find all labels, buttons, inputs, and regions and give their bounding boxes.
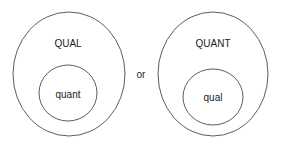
right-outer-label: QUANT xyxy=(196,38,231,49)
right-inner-label: qual xyxy=(204,92,223,103)
left-outer-label: QUAL xyxy=(54,38,81,49)
right-outer-ellipse xyxy=(158,12,268,136)
left-outer-ellipse xyxy=(13,12,125,136)
connector-text: or xyxy=(137,69,146,80)
left-inner-label: quant xyxy=(55,89,80,100)
